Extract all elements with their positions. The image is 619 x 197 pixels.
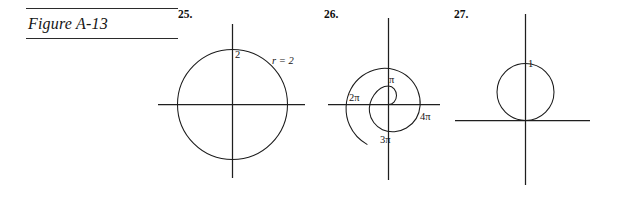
figure-page: Figure A-13 25. 2 r = 2 26. π 2π 3: [0, 0, 619, 197]
problem-panel-27: 27. 1: [450, 0, 619, 197]
label-top-intercept-25: 2: [235, 49, 240, 60]
label-2pi-26: 2π: [349, 92, 360, 103]
problem-panel-25: 25. 2 r = 2: [0, 0, 320, 197]
graph-25: 2 r = 2: [0, 0, 320, 197]
label-top-intercept-27: 1: [528, 58, 533, 69]
label-3pi-26: 3π: [380, 134, 391, 145]
graph-27: 1: [450, 0, 619, 197]
label-pi-26: π: [389, 74, 395, 85]
problem-panel-26: 26. π 2π 3π 4π: [320, 0, 450, 197]
label-equation-25: r = 2: [272, 55, 294, 66]
label-4pi-26: 4π: [420, 111, 431, 122]
graph-26: π 2π 3π 4π: [320, 0, 450, 197]
